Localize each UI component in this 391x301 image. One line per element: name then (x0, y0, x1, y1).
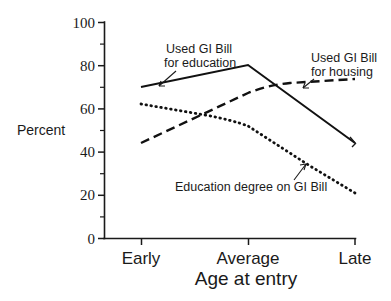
housing-label-line1: Used GI Bill (311, 51, 377, 65)
degree-leader-line (294, 164, 306, 180)
chart-figure: 100 80 60 40 20 0 Percent Early Average … (0, 0, 391, 301)
y-axis-title: Percent (17, 122, 65, 138)
x-tick-labels: Early Average Late (122, 249, 372, 268)
housing-label-line2: for housing (311, 65, 373, 79)
education-label-line2: for education (164, 56, 236, 70)
series-used-gi-bill-housing (141, 79, 355, 143)
y-tick-label-0: 0 (88, 231, 96, 247)
y-tick-label-20: 20 (80, 187, 95, 203)
line-chart-canvas: 100 80 60 40 20 0 Percent Early Average … (0, 0, 391, 301)
x-tick-label-average: Average (216, 249, 279, 268)
annotation-leaders (159, 71, 314, 180)
y-tick-labels: 100 80 60 40 20 0 (73, 15, 96, 247)
x-tick-label-late: Late (338, 249, 371, 268)
degree-label-line1: Education degree on GI Bill (175, 180, 327, 194)
y-tick-label-40: 40 (80, 144, 95, 160)
y-minor-ticks (100, 44, 104, 217)
y-tick-label-60: 60 (80, 101, 95, 117)
x-tick-label-early: Early (122, 249, 161, 268)
y-tick-label-100: 100 (73, 15, 96, 31)
education-label-line1: Used GI Bill (166, 42, 232, 56)
annotation-housing: Used GI Bill for housing (311, 51, 377, 79)
education-leader-line (159, 71, 176, 86)
y-tick-label-80: 80 (80, 58, 95, 74)
annotation-education: Used GI Bill for education (164, 42, 236, 70)
x-axis-title: Age at entry (195, 268, 298, 289)
annotation-degree: Education degree on GI Bill (175, 180, 327, 194)
